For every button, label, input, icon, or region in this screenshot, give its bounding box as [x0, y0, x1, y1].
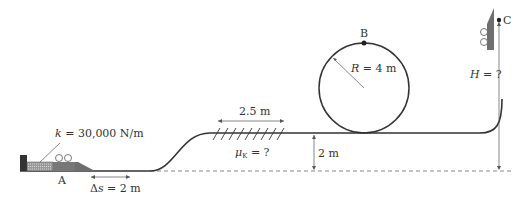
height-2m-label: 2 m	[318, 147, 339, 160]
cart-c	[487, 8, 494, 50]
friction-hatch	[213, 128, 284, 140]
point-b-label: B	[360, 27, 368, 40]
spring-wall	[20, 155, 27, 171]
point-c-dot	[497, 18, 501, 22]
friction-length-label: 2.5 m	[239, 105, 271, 118]
radius-label: R = 4 m	[350, 62, 397, 75]
launch-ramp	[75, 162, 95, 171]
height-h-label: H = ?	[469, 68, 502, 81]
cart-c-wheel	[481, 39, 488, 46]
cart-a	[53, 162, 75, 171]
cart-a-wheel	[56, 155, 63, 162]
mu-label: μK = ?	[235, 146, 270, 160]
point-b-dot	[362, 41, 367, 46]
cart-c-wheel	[481, 29, 488, 36]
cart-a-wheel	[65, 155, 72, 162]
roller-coaster-diagram: k = 30,000 N/m A Δs = 2 m 2.5 m μK = ? 2…	[0, 0, 529, 201]
point-a-label: A	[57, 174, 67, 187]
point-c-label: C	[503, 14, 511, 27]
spring-label: k = 30,000 N/m	[55, 127, 144, 140]
ds-label: Δs = 2 m	[90, 182, 141, 195]
